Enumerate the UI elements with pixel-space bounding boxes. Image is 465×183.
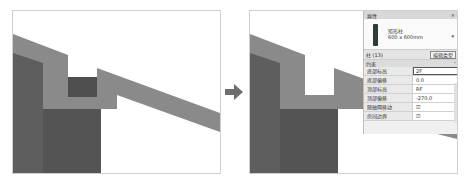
type-size: 600 x 600mm [388,34,423,40]
before-viewport [12,10,221,174]
column-type-icon [373,24,378,46]
property-row[interactable]: 顶部偏移 -270.0 [364,94,458,103]
property-checkbox[interactable]: ☑ [413,112,458,120]
arrow-right-icon [225,84,243,100]
close-icon[interactable]: × [451,12,455,18]
property-value-input[interactable]: 2F [413,67,458,75]
property-label: 底部标高 [364,67,413,75]
property-row[interactable]: 房间边界 ☑ [364,112,458,121]
property-value-input[interactable]: RF [413,85,458,93]
property-row[interactable]: 顶部标高 RF [364,85,458,94]
scrollbar[interactable] [454,83,458,123]
property-row[interactable]: 随轴网移动 ☑ [364,103,458,112]
property-label: 顶部偏移 [364,94,413,102]
properties-title: 属性 [367,12,377,19]
properties-header: 属性 × [364,11,458,19]
property-checkbox[interactable]: ☑ [413,103,458,111]
collapse-icon[interactable]: ˄ [454,61,457,67]
after-viewport: 属性 × 矩形柱 600 x 600mm ▾ 柱 (13) 编辑类型 约束 ˄ … [249,10,458,174]
instance-filter-dropdown[interactable]: 柱 (13) [366,51,383,58]
chevron-down-icon[interactable]: ▾ [451,33,454,39]
property-value-input[interactable]: 0.0 [413,76,458,84]
before-3d-scene [13,11,220,173]
property-label: 底部偏移 [364,76,413,84]
property-value-input[interactable]: -270.0 [413,94,458,102]
properties-panel: 属性 × 矩形柱 600 x 600mm ▾ 柱 (13) 编辑类型 约束 ˄ … [363,11,458,134]
property-row[interactable]: 底部偏移 0.0 [364,76,458,85]
section-constraints[interactable]: 约束 ˄ [364,60,458,67]
section-title: 约束 [366,60,376,67]
instance-filter: 柱 (13) 编辑类型 [364,50,458,60]
property-row[interactable]: 底部标高 2F [364,67,458,76]
property-label: 顶部标高 [364,85,413,93]
property-label: 房间边界 [364,112,413,120]
property-label: 随轴网移动 [364,103,413,111]
type-selector[interactable]: 矩形柱 600 x 600mm ▾ [364,19,458,50]
edit-type-button[interactable]: 编辑类型 [430,51,456,59]
